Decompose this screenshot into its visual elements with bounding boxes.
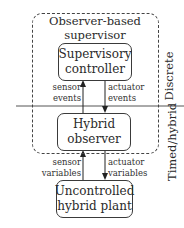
sensor-variables-label: sensor variables [36, 157, 81, 179]
actuator-variables-label: actuator variables [108, 157, 153, 179]
supervisory-controller-box: Supervisory controller [58, 43, 132, 81]
group-title: Observer-based supervisor [36, 14, 154, 42]
actuator-events-label: actuator events [108, 82, 148, 104]
box-label: controller [65, 62, 125, 77]
box-label: hybrid plant [57, 199, 131, 214]
layer-label-timed-hybrid: Timed/hybrid [165, 105, 179, 181]
hybrid-observer-box: Hybrid observer [57, 113, 131, 151]
group-title-line2: supervisor [36, 28, 154, 42]
box-label: observer [67, 132, 121, 147]
box-label: Uncontrolled [55, 184, 135, 199]
box-label: Supervisory [59, 47, 132, 62]
group-title-line1: Observer-based [36, 14, 154, 28]
layer-label-discrete: Discrete [162, 51, 176, 101]
uncontrolled-hybrid-plant-box: Uncontrolled hybrid plant [56, 180, 133, 218]
box-label: Hybrid [73, 117, 115, 132]
sensor-events-label: sensor events [50, 82, 81, 104]
